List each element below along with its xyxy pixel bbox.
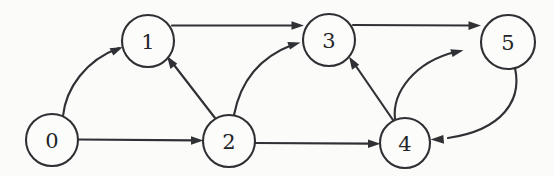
graph-node-2[interactable]: 2 xyxy=(203,115,255,167)
node-4-label: 4 xyxy=(398,132,411,156)
edge-2-to-3 xyxy=(234,42,301,115)
edge-5-to-4 xyxy=(431,68,517,144)
edge-4-to-3 xyxy=(349,57,393,121)
edge-2-to-4-path xyxy=(255,143,372,144)
edge-1-to-3 xyxy=(172,21,304,30)
graph-figure: 0 1 2 3 4 5 xyxy=(0,0,554,176)
node-layer: 0 1 2 3 4 5 xyxy=(26,14,535,168)
edge-5-to-4-path xyxy=(448,68,516,138)
edge-0-to-1 xyxy=(63,47,123,116)
edge-3-to-5 xyxy=(353,21,481,30)
edge-4-to-3-path xyxy=(355,64,394,120)
edge-3-to-5-arrowhead xyxy=(469,21,482,30)
node-3-label: 3 xyxy=(322,29,335,53)
graph-node-3[interactable]: 3 xyxy=(303,14,355,66)
edge-0-to-2 xyxy=(78,136,204,145)
graph-node-5[interactable]: 5 xyxy=(481,15,535,69)
graph-node-0[interactable]: 0 xyxy=(26,114,78,166)
edge-2-to-1 xyxy=(167,56,215,118)
edge-2-to-3-path xyxy=(234,45,292,115)
node-2-label: 2 xyxy=(222,130,235,154)
edge-0-to-2-path xyxy=(78,140,195,141)
edge-2-to-4-arrowhead xyxy=(368,139,381,148)
graph-canvas: 0 1 2 3 4 5 xyxy=(0,0,554,176)
edge-4-to-5-arrowhead xyxy=(450,49,463,57)
edge-4-to-5-path xyxy=(395,52,455,119)
node-5-label: 5 xyxy=(501,31,514,55)
edge-0-to-1-path xyxy=(63,48,119,116)
edge-2-to-4 xyxy=(255,139,381,148)
edge-3-to-5-path xyxy=(353,25,472,26)
graph-node-1[interactable]: 1 xyxy=(122,15,174,67)
graph-node-4[interactable]: 4 xyxy=(380,118,430,168)
node-1-label: 1 xyxy=(141,30,154,54)
edge-1-to-3-arrowhead xyxy=(292,21,305,30)
edge-2-to-1-path xyxy=(173,63,216,118)
edge-2-to-3-arrowhead xyxy=(287,42,300,50)
edge-4-to-5 xyxy=(395,49,464,119)
node-0-label: 0 xyxy=(45,129,58,153)
edge-5-to-4-arrowhead xyxy=(431,135,445,144)
edge-0-to-1-arrowhead xyxy=(110,47,123,56)
edge-0-to-2-arrowhead xyxy=(191,136,204,145)
